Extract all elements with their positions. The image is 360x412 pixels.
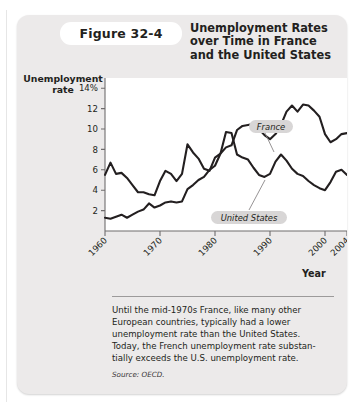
x-axis-title: Year <box>302 268 326 279</box>
x-tick-label: 1970 <box>141 235 164 258</box>
y-tick-label: 14% <box>79 83 98 93</box>
figure-page: Figure 32-4 Unemployment Rates over Time… <box>0 0 360 412</box>
x-tick-label: 1980 <box>196 235 219 258</box>
y-tick-label: 8 <box>93 145 98 155</box>
caption-line-2: European countries, typically had a lowe… <box>112 317 334 329</box>
page-margin-rule <box>6 10 7 402</box>
series-label-text: United States <box>221 213 278 223</box>
y-tick-label: 2 <box>93 206 98 216</box>
caption-line-1: Until the mid-1970s France, like many ot… <box>112 305 334 317</box>
figure-card: Figure 32-4 Unemployment Rates over Time… <box>17 15 347 394</box>
caption-source: Source: OECD. <box>112 370 334 379</box>
caption-body: Until the mid-1970s France, like many ot… <box>112 305 334 365</box>
x-tick-label: 2000 <box>306 235 329 258</box>
y-tick-label: 6 <box>93 165 98 175</box>
series-label-text: France <box>257 122 285 132</box>
plot-background <box>105 78 347 231</box>
figure-caption: Until the mid-1970s France, like many ot… <box>112 296 334 379</box>
caption-line-3: unemployment rate than the United States… <box>112 329 334 341</box>
y-tick-label: 12 <box>87 104 98 114</box>
x-tick-label: 2004 <box>328 235 347 258</box>
y-tick-label: 10 <box>87 124 98 134</box>
caption-line-5: tially exceeds the U.S. unemployment rat… <box>112 353 334 365</box>
y-tick-label: 4 <box>93 185 98 195</box>
caption-line-4: Today, the French unemployment rate subs… <box>112 341 334 353</box>
x-tick-label: 1990 <box>251 235 274 258</box>
caption-divider <box>112 296 334 297</box>
x-tick-label: 1960 <box>86 235 109 258</box>
